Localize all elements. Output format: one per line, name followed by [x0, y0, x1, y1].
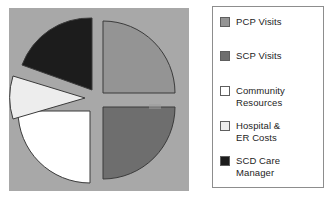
pie-slice-scp-visits[interactable] — [103, 107, 175, 179]
pie-slice-scd-care-manager[interactable] — [22, 18, 92, 90]
legend-item-label: Hospital & ER Costs — [236, 120, 280, 143]
legend-item-label: SCP Visits — [236, 50, 282, 62]
pie-slice-community-resources[interactable] — [18, 111, 90, 183]
pie-slice-pcp-visits[interactable] — [103, 21, 175, 93]
pie-chart-figure: PCP Visits SCP Visits Community Resource… — [0, 0, 335, 201]
legend-item-scd-care-manager[interactable]: SCD Care Manager — [220, 155, 280, 178]
pie-svg — [9, 8, 189, 191]
legend-swatch-icon — [220, 17, 230, 27]
chart-plot-area — [9, 8, 189, 191]
legend-item-label: Community Resources — [236, 85, 285, 108]
legend-item-label: SCD Care Manager — [236, 155, 280, 178]
legend-item-community-resources[interactable]: Community Resources — [220, 85, 285, 108]
legend-swatch-icon — [220, 121, 230, 131]
legend-item-pcp-visits[interactable]: PCP Visits — [220, 16, 282, 28]
chart-legend: PCP Visits SCP Visits Community Resource… — [212, 6, 324, 188]
legend-item-label: PCP Visits — [236, 16, 282, 28]
legend-item-scp-visits[interactable]: SCP Visits — [220, 50, 282, 62]
legend-swatch-icon — [220, 156, 230, 166]
legend-swatch-icon — [220, 86, 230, 96]
legend-item-hospital-er-costs[interactable]: Hospital & ER Costs — [220, 120, 280, 143]
scan-artifact — [149, 104, 161, 109]
legend-swatch-icon — [220, 51, 230, 61]
